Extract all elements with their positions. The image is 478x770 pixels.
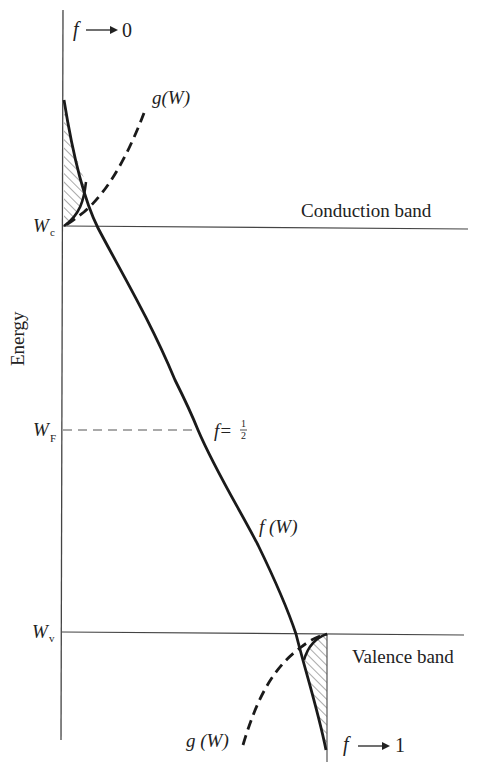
svg-text:c: c [50, 226, 55, 238]
dos-upper-label: g(W) [152, 87, 190, 109]
f-to-zero-label: f 0 [73, 18, 132, 41]
conduction-band-label: Conduction band [301, 200, 432, 221]
svg-text:2: 2 [241, 430, 246, 441]
fermi-function-curve [64, 100, 326, 750]
valence-band-edge-line [62, 632, 464, 635]
conduction-edge-label: W c [33, 215, 55, 238]
energy-axis [61, 10, 63, 740]
svg-text:W: W [32, 621, 50, 642]
fermi-function-label: f (W) [259, 516, 298, 538]
fermi-level-label: W F [33, 419, 56, 444]
svg-text:f: f [343, 733, 351, 756]
valence-edge-label: W v [32, 621, 55, 644]
svg-text:W: W [33, 215, 51, 236]
dos-lower-label: g (W) [186, 730, 229, 752]
energy-axis-label: Energy [7, 311, 28, 366]
half-occupancy-label: f= 1 2 [214, 418, 247, 441]
band-diagram: f 0 f 1 g(W) g (W) f (W) f= 1 2 W c W F … [0, 0, 478, 770]
svg-text:v: v [49, 632, 55, 644]
svg-text:f: f [73, 18, 81, 41]
svg-text:0: 0 [122, 19, 132, 41]
svg-text:1: 1 [395, 734, 405, 756]
svg-text:F: F [50, 432, 56, 444]
conduction-band-edge-line [63, 226, 468, 229]
valence-band-label: Valence band [352, 646, 454, 667]
f-to-one-label: f 1 [343, 733, 405, 756]
svg-text:f=: f= [214, 420, 232, 441]
svg-text:1: 1 [241, 418, 246, 429]
svg-text:W: W [33, 419, 51, 440]
